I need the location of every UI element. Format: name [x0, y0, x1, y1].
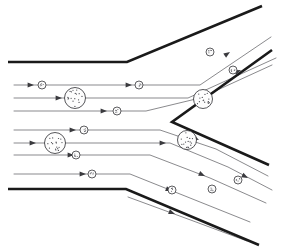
particle-large-2-speck	[51, 142, 52, 143]
particle-small-5-speck	[231, 71, 232, 72]
particle-small-9	[234, 176, 242, 184]
particle-small-7-speck	[74, 154, 75, 155]
particle-small-5-outline	[229, 66, 237, 74]
particle-small-5	[229, 66, 237, 74]
particle-large-3-speck	[208, 98, 209, 99]
particle-large-4-outline	[178, 131, 197, 150]
particle-small-10	[208, 185, 216, 193]
particle-large-4-speck	[189, 138, 190, 139]
particle-small-3-speck	[115, 112, 116, 113]
particle-large-4-speck	[188, 147, 189, 148]
particle-small-9-speck	[239, 179, 240, 180]
particle-large-3-speck	[204, 94, 205, 95]
particle-large-1-speck	[71, 91, 72, 92]
particle-large-1-outline	[65, 88, 86, 109]
particle-small-9-outline	[234, 176, 242, 184]
particle-small-7-speck	[74, 155, 75, 156]
particle-small-9-speck	[238, 181, 239, 182]
particle-small-8-speck	[92, 174, 93, 175]
particle-small-3-speck	[116, 110, 117, 111]
inlet-streamline-6-arrowhead-2	[198, 171, 206, 178]
particle-large-4-speck	[188, 141, 189, 142]
particle-large-3-speck	[199, 101, 200, 102]
particle-large-2-speck	[58, 138, 59, 139]
particle-large-3-speck	[199, 97, 200, 98]
particle-small-6-speck	[84, 129, 85, 130]
particle-small-7	[72, 151, 80, 159]
particle-layer	[38, 48, 242, 194]
particle-small-6	[80, 126, 88, 134]
particle-small-2-speck	[139, 83, 140, 84]
inlet-streamline-3-arrowhead-1	[101, 109, 107, 114]
inlet-streamline-1-arrowhead-1	[28, 83, 34, 88]
inlet-streamline-1-arrowhead-2	[126, 83, 132, 88]
particle-large-2-speck	[56, 146, 57, 147]
particle-large-1-speck	[76, 89, 77, 90]
particle-small-11	[168, 186, 176, 194]
inlet-streamline-5-arrowhead-1	[30, 141, 36, 146]
particle-small-6-speck	[85, 130, 86, 131]
particle-large-3-speck	[197, 103, 198, 104]
outlet-streamline-lower-1	[128, 197, 247, 241]
particle-large-2-speck	[49, 147, 50, 148]
particle-small-1-speck	[40, 84, 41, 85]
particle-large-1-speck	[76, 93, 77, 94]
particle-small-4-speck	[208, 50, 209, 51]
particle-large-1-speck	[72, 101, 73, 102]
particle-small-9-speck	[236, 179, 237, 180]
particle-small-6-speck	[85, 131, 86, 132]
particle-small-1-speck	[41, 85, 42, 86]
particle-large-3-speck	[204, 102, 205, 103]
particle-large-2	[45, 133, 66, 154]
particle-large-2-speck	[58, 147, 59, 148]
particle-small-1-speck	[41, 83, 42, 84]
particle-large-4-speck	[181, 144, 182, 145]
particle-small-11-speck	[171, 188, 172, 189]
particle-small-6-speck	[85, 128, 86, 129]
inlet-streamline-2	[14, 58, 276, 98]
particle-small-10-speck	[213, 190, 214, 191]
particle-large-2-speck	[55, 149, 56, 150]
particle-small-3-speck	[116, 111, 117, 112]
particle-small-3-speck	[115, 110, 116, 111]
particle-large-4-speck	[185, 132, 186, 133]
particle-large-3-outline	[194, 90, 213, 109]
particle-small-5-speck	[234, 69, 235, 70]
particle-small-10-speck	[210, 188, 211, 189]
particle-small-10-speck	[211, 189, 212, 190]
particle-large-2-speck	[56, 142, 57, 143]
particle-small-3-speck	[117, 109, 118, 110]
inlet-streamline-2-arrowhead-1	[56, 96, 62, 101]
particle-small-1-speck	[43, 84, 44, 85]
particle-small-5-speck	[231, 69, 232, 70]
particle-large-4	[178, 131, 197, 150]
particle-small-8-speck	[90, 173, 91, 174]
particle-large-2-speck	[61, 142, 62, 143]
wall-layer	[8, 6, 272, 245]
particle-small-4-outline	[206, 48, 214, 56]
particle-large-2-speck	[57, 148, 58, 149]
particle-small-11-speck	[171, 191, 172, 192]
particle-large-2-speck	[58, 150, 59, 151]
particle-large-4-speck	[185, 141, 186, 142]
particle-small-8-outline	[88, 170, 96, 178]
particle-large-2-speck	[52, 143, 53, 144]
inlet-streamline-5-arrowhead-3	[241, 173, 249, 180]
particle-large-1-speck	[79, 93, 80, 94]
particle-small-8-speck	[93, 173, 94, 174]
particle-small-2-speck	[139, 85, 140, 86]
diagram-canvas	[0, 0, 281, 252]
particle-large-1	[65, 88, 86, 109]
particle-small-1	[38, 81, 46, 89]
particle-large-1-speck	[78, 99, 79, 100]
particle-large-4-speck	[181, 139, 182, 140]
particle-large-4-speck	[183, 143, 184, 144]
inlet-streamline-7	[14, 174, 250, 222]
particle-small-4-speck	[208, 52, 209, 53]
particle-small-4-speck	[211, 50, 212, 51]
particle-large-2-speck	[52, 137, 53, 138]
particle-large-4-speck	[191, 142, 192, 143]
particle-small-3-outline	[113, 107, 121, 115]
particle-small-7-outline	[72, 151, 80, 159]
particle-large-3-speck	[198, 93, 199, 94]
